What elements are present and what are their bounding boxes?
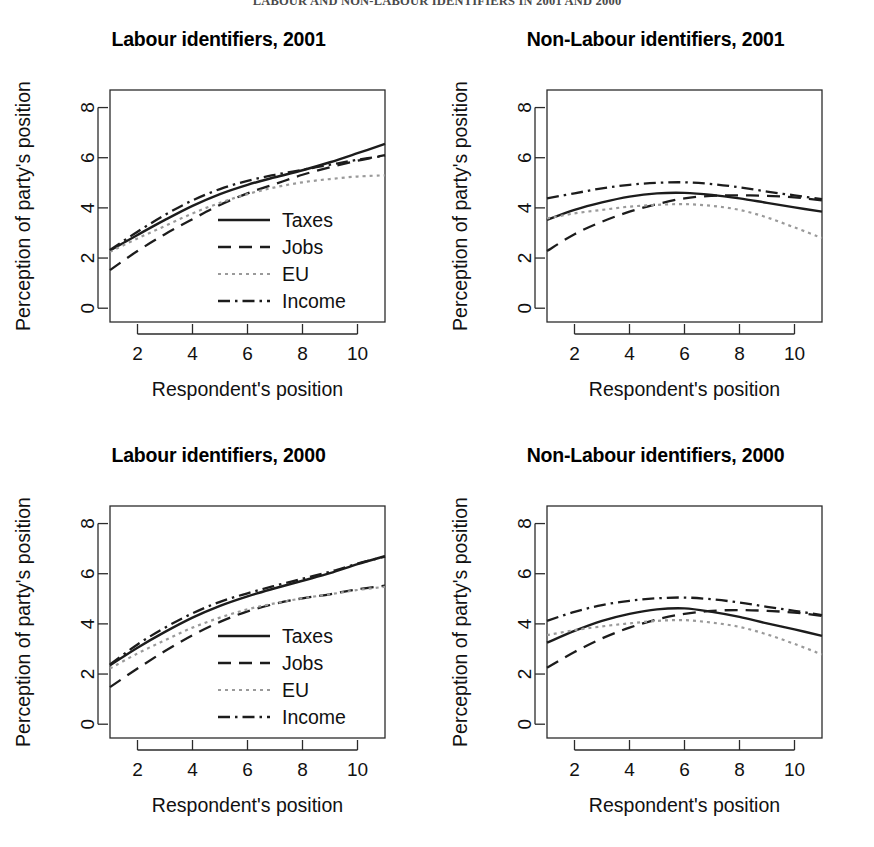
y-tick-label: 0 bbox=[515, 719, 536, 730]
legend-label-income: Income bbox=[282, 706, 346, 728]
y-tick-label: 6 bbox=[515, 568, 536, 579]
x-tick-label: 8 bbox=[297, 343, 308, 364]
x-tick-label: 6 bbox=[679, 343, 690, 364]
x-tick-label: 10 bbox=[347, 759, 368, 780]
y-tick-label: 2 bbox=[515, 669, 536, 680]
x-axis-title: Respondent's position bbox=[152, 378, 343, 400]
legend-label-jobs: Jobs bbox=[282, 652, 323, 674]
x-tick-label: 2 bbox=[569, 759, 580, 780]
y-tick-label: 4 bbox=[515, 202, 536, 213]
y-axis-title: Perception of party's position bbox=[449, 81, 471, 331]
plot-area-non-labour-2000: 02468246810Respondent's positionPercepti… bbox=[437, 430, 874, 846]
x-tick-label: 4 bbox=[624, 343, 635, 364]
y-tick-label: 2 bbox=[78, 253, 99, 264]
x-tick-label: 6 bbox=[242, 343, 253, 364]
panel-labour-2001: Labour identifiers, 200102468246810Respo… bbox=[0, 14, 437, 430]
y-tick-label: 6 bbox=[78, 568, 99, 579]
x-tick-label: 8 bbox=[734, 759, 745, 780]
x-axis: 246810 bbox=[569, 324, 805, 364]
x-axis: 246810 bbox=[132, 740, 368, 780]
y-tick-label: 0 bbox=[78, 303, 99, 314]
x-tick-label: 10 bbox=[347, 343, 368, 364]
y-axis: 02468 bbox=[515, 102, 546, 313]
x-tick-label: 6 bbox=[242, 759, 253, 780]
x-axis-title: Respondent's position bbox=[589, 794, 780, 816]
y-tick-label: 8 bbox=[78, 102, 99, 113]
x-tick-label: 8 bbox=[734, 343, 745, 364]
legend-label-taxes: Taxes bbox=[282, 209, 333, 231]
legend-label-eu: EU bbox=[282, 263, 309, 285]
y-tick-label: 4 bbox=[515, 618, 536, 629]
y-axis: 02468 bbox=[78, 518, 109, 729]
y-axis-title: Perception of party's position bbox=[449, 497, 471, 747]
x-axis: 246810 bbox=[132, 324, 368, 364]
x-tick-label: 2 bbox=[132, 343, 143, 364]
y-tick-label: 6 bbox=[515, 152, 536, 163]
y-tick-label: 6 bbox=[78, 152, 99, 163]
y-tick-label: 8 bbox=[515, 102, 536, 113]
plot-frame bbox=[547, 506, 822, 738]
plot-area-non-labour-2001: 02468246810Respondent's positionPercepti… bbox=[437, 14, 874, 430]
y-tick-label: 2 bbox=[78, 669, 99, 680]
legend-label-eu: EU bbox=[282, 679, 309, 701]
y-tick-label: 0 bbox=[78, 719, 99, 730]
y-axis: 02468 bbox=[78, 102, 109, 313]
panel-non-labour-2001: Non-Labour identifiers, 200102468246810R… bbox=[437, 14, 874, 430]
x-tick-label: 4 bbox=[187, 343, 198, 364]
panel-labour-2000: Labour identifiers, 200002468246810Respo… bbox=[0, 430, 437, 846]
x-tick-label: 4 bbox=[624, 759, 635, 780]
legend-label-income: Income bbox=[282, 290, 346, 312]
panel-non-labour-2000: Non-Labour identifiers, 200002468246810R… bbox=[437, 430, 874, 846]
x-tick-label: 4 bbox=[187, 759, 198, 780]
panel-grid: Labour identifiers, 200102468246810Respo… bbox=[0, 14, 874, 847]
y-tick-label: 8 bbox=[515, 518, 536, 529]
y-tick-label: 2 bbox=[515, 253, 536, 264]
plot-area-labour-2001: 02468246810Respondent's positionPercepti… bbox=[0, 14, 437, 430]
x-tick-label: 2 bbox=[132, 759, 143, 780]
x-tick-label: 10 bbox=[784, 343, 805, 364]
legend-label-taxes: Taxes bbox=[282, 625, 333, 647]
y-tick-label: 0 bbox=[515, 303, 536, 314]
x-tick-label: 6 bbox=[679, 759, 690, 780]
y-tick-label: 8 bbox=[78, 518, 99, 529]
y-axis-title: Perception of party's position bbox=[12, 81, 34, 331]
plot-frame bbox=[110, 506, 385, 738]
x-axis-title: Respondent's position bbox=[152, 794, 343, 816]
x-axis-title: Respondent's position bbox=[589, 378, 780, 400]
y-axis-title: Perception of party's position bbox=[12, 497, 34, 747]
y-tick-label: 4 bbox=[78, 618, 99, 629]
x-tick-label: 8 bbox=[297, 759, 308, 780]
y-axis: 02468 bbox=[515, 518, 546, 729]
plot-area-labour-2000: 02468246810Respondent's positionPercepti… bbox=[0, 430, 437, 846]
plot-frame bbox=[110, 90, 385, 322]
y-tick-label: 4 bbox=[78, 202, 99, 213]
x-tick-label: 2 bbox=[569, 343, 580, 364]
legend-label-jobs: Jobs bbox=[282, 236, 323, 258]
figure-caption: LABOUR AND NON-LABOUR IDENTIFIERS IN 200… bbox=[0, 0, 874, 6]
x-tick-label: 10 bbox=[784, 759, 805, 780]
x-axis: 246810 bbox=[569, 740, 805, 780]
